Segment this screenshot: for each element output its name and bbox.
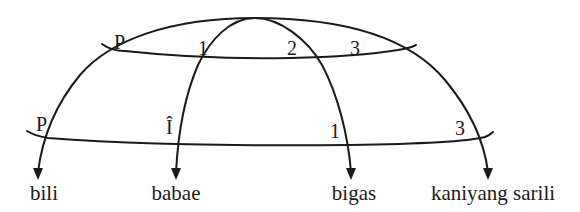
target-bili: bili (30, 183, 58, 204)
arrowhead-icon (171, 168, 181, 180)
arrowhead-icon (33, 168, 43, 180)
inner-arch-right (255, 18, 351, 172)
upper-label-2: 2 (287, 38, 297, 58)
upper-label-1: 1 (198, 38, 208, 58)
upper-label-p: P (114, 32, 125, 52)
target-babae: babae (152, 183, 201, 204)
lower-label-p: P (36, 114, 47, 134)
arrowhead-icon (346, 168, 356, 180)
lower-label-i-hat: Î (166, 117, 173, 137)
target-kaniyang-sarili: kaniyang sarili (431, 183, 555, 204)
upper-track (102, 44, 416, 58)
binding-diagram: P 1 2 3 P Î 1 3 bili babae bigas kaniyan… (0, 0, 580, 212)
lower-label-1: 1 (330, 121, 340, 141)
inner-arch-left (176, 18, 255, 172)
lower-label-3: 3 (455, 118, 465, 138)
upper-label-3: 3 (350, 38, 360, 58)
lower-track (27, 131, 493, 145)
arrowhead-icon (483, 168, 493, 180)
target-bigas: bigas (332, 183, 376, 204)
outer-arc-left (38, 18, 255, 172)
